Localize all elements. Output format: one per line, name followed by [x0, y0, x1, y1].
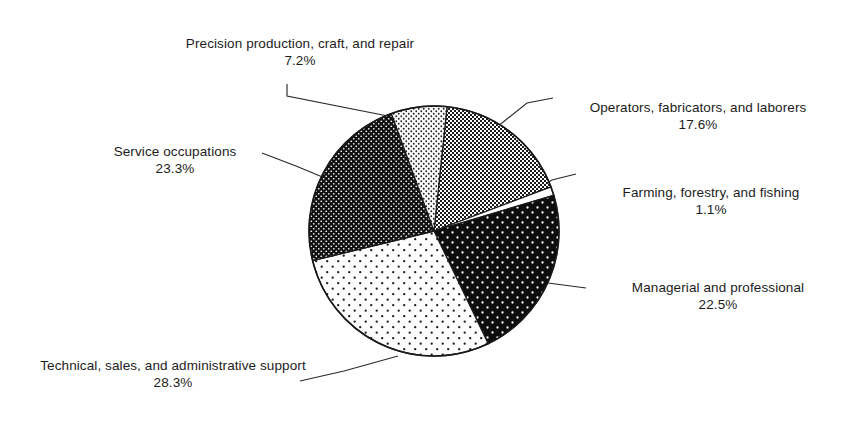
slice-label-operators: Operators, fabricators, and laborers 17.… [548, 82, 848, 150]
pie-chart-figure: Precision production, craft, and repair … [0, 0, 863, 438]
slice-label-managerial-name: Managerial and professional [632, 280, 804, 295]
slice-label-farming-percent: 1.1% [576, 201, 846, 218]
slice-label-managerial: Managerial and professional 22.5% [584, 262, 852, 330]
slice-label-precision-percent: 7.2% [160, 52, 440, 69]
slice-label-service-percent: 23.3% [70, 160, 280, 177]
slice-label-precision: Precision production, craft, and repair … [160, 18, 440, 86]
slice-label-farming: Farming, forestry, and fishing 1.1% [576, 167, 846, 235]
pie-slices-group [309, 106, 559, 356]
slice-label-technical-name: Technical, sales, and administrative sup… [40, 358, 306, 373]
slice-label-service: Service occupations 23.3% [70, 126, 280, 194]
slice-label-farming-name: Farming, forestry, and fishing [623, 185, 800, 200]
slice-label-service-name: Service occupations [114, 144, 237, 159]
slice-label-operators-percent: 17.6% [548, 116, 848, 133]
slice-label-precision-name: Precision production, craft, and repair [186, 36, 414, 51]
leader-line-precision [287, 84, 403, 119]
slice-label-technical-percent: 28.3% [18, 374, 328, 391]
slice-label-managerial-percent: 22.5% [584, 296, 852, 313]
slice-label-operators-name: Operators, fabricators, and laborers [590, 100, 807, 115]
slice-label-technical: Technical, sales, and administrative sup… [18, 340, 328, 408]
